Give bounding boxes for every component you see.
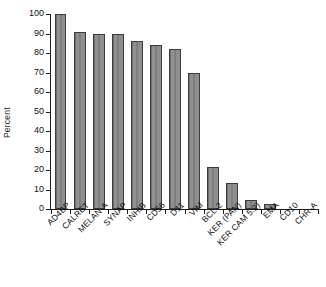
y-tick-label: 90 xyxy=(34,28,44,39)
bar xyxy=(169,49,181,209)
y-tick-label: 30 xyxy=(34,145,44,156)
y-tick-mark xyxy=(46,92,50,93)
y-tick-label: 20 xyxy=(34,164,44,175)
y-tick-label: 50 xyxy=(34,106,44,117)
y-tick-mark xyxy=(46,14,50,15)
y-tick-mark xyxy=(46,170,50,171)
y-tick-mark xyxy=(46,34,50,35)
bar xyxy=(93,34,105,210)
y-tick-mark xyxy=(46,112,50,113)
plot-area: 0102030405060708090100 xyxy=(50,14,318,209)
x-tick-label: INHIB xyxy=(124,200,147,223)
y-tick-mark xyxy=(46,131,50,132)
x-axis-labels: AD4BPCALRETMELAN-ASYNAPINHIBCD56D11VIMBC… xyxy=(50,200,326,287)
y-tick-mark xyxy=(46,53,50,54)
bar xyxy=(150,45,162,209)
y-tick-label: 60 xyxy=(34,86,44,97)
bar xyxy=(131,41,143,209)
bar xyxy=(188,73,200,210)
y-tick-label: 0 xyxy=(39,203,44,214)
bar xyxy=(112,34,124,210)
y-tick-label: 100 xyxy=(29,8,44,19)
bar-chart-figure: Percent 0102030405060708090100 AD4BPCALR… xyxy=(0,0,326,287)
y-tick-mark xyxy=(46,190,50,191)
y-tick-label: 10 xyxy=(34,184,44,195)
bar xyxy=(55,14,67,209)
bar xyxy=(74,32,86,209)
y-tick-label: 70 xyxy=(34,67,44,78)
y-axis-title: Percent xyxy=(0,88,14,158)
y-tick-label: 40 xyxy=(34,125,44,136)
bars-layer xyxy=(51,14,318,210)
y-tick-mark xyxy=(46,73,50,74)
x-tick-label: D11 xyxy=(168,200,186,218)
y-tick-label: 80 xyxy=(34,47,44,58)
x-tick-label: CD56 xyxy=(144,200,167,223)
y-tick-mark xyxy=(46,151,50,152)
